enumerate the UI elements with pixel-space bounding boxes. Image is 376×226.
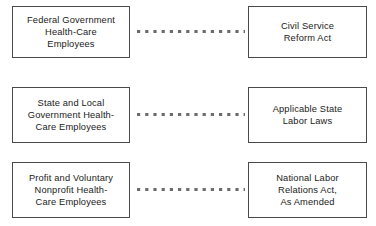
employee-category-label-3: Profit and Voluntary Nonprofit Health- C… <box>25 172 117 209</box>
diagram-canvas: Federal Government Health-Care Employees… <box>0 0 376 226</box>
governing-law-label-2: Applicable State Labor Laws <box>269 103 347 127</box>
governing-law-box-2[interactable]: Applicable State Labor Laws <box>248 87 367 143</box>
diagram-row: State and Local Government Health- Care … <box>0 87 376 143</box>
governing-law-box-3[interactable]: National Labor Relations Act, As Amended <box>248 162 367 218</box>
diagram-row: Profit and Voluntary Nonprofit Health- C… <box>0 162 376 218</box>
employee-category-box-1[interactable]: Federal Government Health-Care Employees <box>12 6 130 58</box>
governing-law-label-1: Civil Service Reform Act <box>277 20 338 44</box>
governing-law-label-3: National Labor Relations Act, As Amended <box>272 172 343 209</box>
dotted-connector-1 <box>137 30 245 33</box>
employee-category-box-2[interactable]: State and Local Government Health- Care … <box>12 87 130 143</box>
employee-category-label-2: State and Local Government Health- Care … <box>24 97 118 134</box>
diagram-row: Federal Government Health-Care Employees… <box>0 6 376 58</box>
employee-category-label-1: Federal Government Health-Care Employees <box>23 14 119 51</box>
employee-category-box-3[interactable]: Profit and Voluntary Nonprofit Health- C… <box>12 162 130 218</box>
dotted-connector-3 <box>137 188 245 191</box>
governing-law-box-1[interactable]: Civil Service Reform Act <box>248 6 367 58</box>
dotted-connector-2 <box>137 113 245 116</box>
